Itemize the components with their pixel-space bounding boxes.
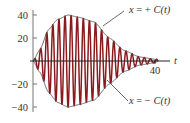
t-axis-label: t bbox=[174, 55, 178, 66]
y-tick-label-40: 40 bbox=[18, 10, 29, 21]
lower-annotation-leader bbox=[107, 80, 128, 101]
y-tick-label-20: 20 bbox=[18, 33, 29, 44]
upper-annotation-leader bbox=[103, 11, 124, 26]
lower-envelope-label: x = − C(t) bbox=[128, 95, 171, 107]
y-tick-label-neg20: −20 bbox=[12, 79, 28, 90]
chart: 40 20 −20 −40 t 40 x = + C(t) x = − C(t) bbox=[0, 0, 190, 123]
upper-envelope-label: x = + C(t) bbox=[128, 4, 171, 16]
y-tick-label-neg40: −40 bbox=[12, 102, 28, 113]
t-tick-label-40: 40 bbox=[150, 65, 161, 76]
